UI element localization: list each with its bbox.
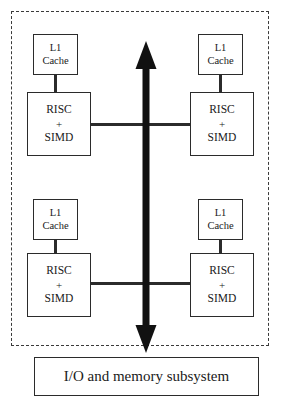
l1-cache-label-line1: L1 (50, 42, 62, 54)
core-label-line1: RISC (209, 103, 235, 117)
core-label-plus: + (219, 118, 225, 131)
core-label-line3: SIMD (45, 131, 74, 145)
central-bus-double-arrow-icon (127, 38, 165, 356)
core-label-plus: + (56, 279, 62, 292)
risc-simd-core-box-lower-left: RISC + SIMD (27, 253, 91, 317)
core-label-plus: + (219, 279, 225, 292)
l1-cache-label-line2: Cache (207, 220, 233, 232)
core-label-line1: RISC (46, 264, 72, 278)
connector-cache-to-core-lower-left (54, 239, 57, 254)
core-label-line1: RISC (209, 264, 235, 278)
core-label-line3: SIMD (208, 292, 237, 306)
l1-cache-box-lower-left: L1 Cache (33, 199, 78, 240)
core-label-line3: SIMD (208, 131, 237, 145)
risc-simd-core-box-upper-right: RISC + SIMD (190, 92, 254, 156)
l1-cache-label-line1: L1 (215, 207, 227, 219)
connector-cache-to-core-lower-right (219, 239, 222, 254)
core-label-plus: + (56, 118, 62, 131)
l1-cache-label-line2: Cache (207, 55, 233, 67)
l1-cache-label-line1: L1 (50, 207, 62, 219)
core-label-line1: RISC (46, 103, 72, 117)
block-diagram-canvas: L1 Cache RISC + SIMD L1 Cache RISC + SIM… (0, 0, 281, 411)
l1-cache-label-line2: Cache (42, 220, 68, 232)
risc-simd-core-box-upper-left: RISC + SIMD (27, 92, 91, 156)
l1-cache-box-lower-right: L1 Cache (198, 199, 243, 240)
l1-cache-label-line2: Cache (42, 55, 68, 67)
io-and-memory-subsystem-label: I/O and memory subsystem (64, 368, 229, 385)
l1-cache-label-line1: L1 (215, 42, 227, 54)
core-label-line3: SIMD (45, 292, 74, 306)
l1-cache-box-upper-right: L1 Cache (198, 34, 243, 75)
connector-cache-to-core-upper-right (219, 74, 222, 93)
connector-cache-to-core-upper-left (54, 74, 57, 93)
risc-simd-core-box-lower-right: RISC + SIMD (190, 253, 254, 317)
l1-cache-box-upper-left: L1 Cache (33, 34, 78, 75)
io-and-memory-subsystem-box: I/O and memory subsystem (34, 357, 259, 396)
